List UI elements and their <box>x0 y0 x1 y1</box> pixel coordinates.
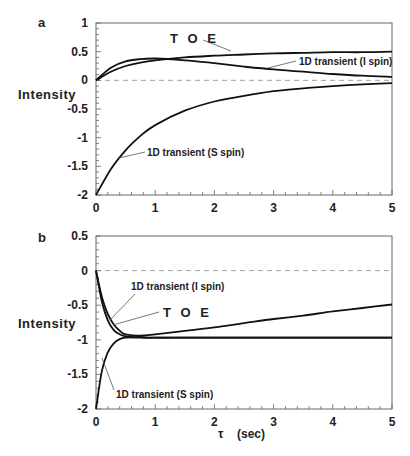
y-tick-label: 0.5 <box>71 229 88 243</box>
panel-a: a Intensity 10.50-0.5-1-1.5-2012345 T O … <box>18 15 396 215</box>
y-tick-label: 0 <box>81 264 88 278</box>
x-tick-label: 5 <box>389 415 396 429</box>
panel-a-ylabel: Intensity <box>18 87 76 102</box>
x-axis-symbol: τ <box>218 427 224 441</box>
panel-b-sspin-label: 1D transient (S spin) <box>116 389 213 400</box>
y-tick-label: -1.5 <box>67 159 88 173</box>
y-tick-label: 0.5 <box>71 45 88 59</box>
x-tick-label: 5 <box>389 201 396 215</box>
x-tick-label: 1 <box>152 201 159 215</box>
y-tick-label: -1 <box>77 333 88 347</box>
x-tick-label: 3 <box>270 415 277 429</box>
panel-a-ispin-leader <box>268 61 296 68</box>
y-tick-label: -1.5 <box>67 367 88 381</box>
y-tick-label: 0 <box>81 73 88 87</box>
x-tick-label: 0 <box>93 415 100 429</box>
panel-a-curves <box>96 52 392 195</box>
panel-b: b Intensity 0.50-0.5-1-1.5-2012345 1D tr… <box>18 229 396 441</box>
panel-a-sspin-label: 1D transient (S spin) <box>147 147 244 158</box>
x-tick-label: 3 <box>270 201 277 215</box>
panel-b-label: b <box>38 230 46 245</box>
figure: a Intensity 10.50-0.5-1-1.5-2012345 T O … <box>0 0 410 456</box>
panel-b-toe-leader <box>113 312 159 325</box>
panel-b-ispin-leader <box>110 294 135 320</box>
x-tick-label: 4 <box>329 201 336 215</box>
x-tick-label: 2 <box>211 415 218 429</box>
panel-b-sspin-leader <box>102 358 114 390</box>
y-tick-label: -0.5 <box>67 298 88 312</box>
panel-b-ispin-label: 1D transient (I spin) <box>131 281 224 292</box>
panel-b-toe-label: T O E <box>163 305 212 320</box>
panel-a-axes: 10.50-0.5-1-1.5-2012345 <box>67 16 395 215</box>
y-tick-label: -2 <box>77 188 88 202</box>
x-tick-label: 4 <box>329 415 336 429</box>
y-tick-label: -2 <box>77 402 88 416</box>
x-axis-unit: (sec) <box>237 427 265 441</box>
plot-frame <box>96 23 392 195</box>
y-tick-label: -0.5 <box>67 102 88 116</box>
panel-a-ispin-label: 1D transient (I spin) <box>299 56 392 67</box>
panel-a-label: a <box>38 15 46 30</box>
curve-1d-transient-s-spin <box>96 83 392 195</box>
x-tick-label: 1 <box>152 415 159 429</box>
y-tick-label: 1 <box>81 16 88 30</box>
x-tick-label: 0 <box>93 201 100 215</box>
panel-b-ylabel: Intensity <box>18 316 76 331</box>
y-tick-label: -1 <box>77 131 88 145</box>
x-tick-label: 2 <box>211 201 218 215</box>
